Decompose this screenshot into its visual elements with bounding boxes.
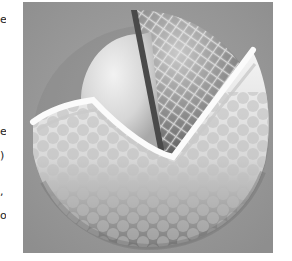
text-fragment: ): [0, 150, 6, 161]
page: e e ) , o: [0, 0, 292, 261]
text-fragment: e: [0, 14, 6, 25]
text-fragment: o: [0, 210, 6, 221]
text-fragment: ,: [0, 186, 6, 197]
golf-ball-cutaway-photo: [23, 2, 273, 253]
clipped-text-fragments: e e ) , o: [0, 0, 22, 261]
text-fragment: e: [0, 126, 6, 137]
golf-ball-illustration: [23, 2, 273, 253]
